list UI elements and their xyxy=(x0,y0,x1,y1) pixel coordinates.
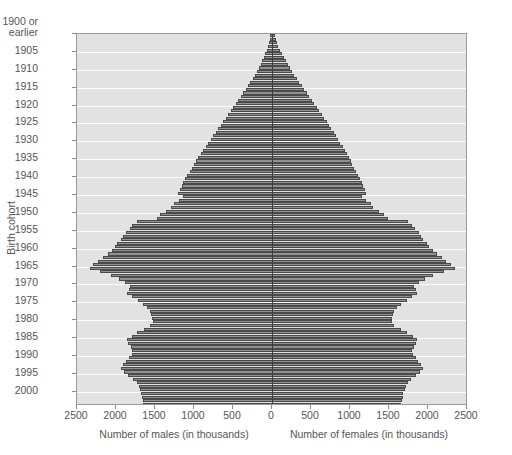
x-tick-label: 2000 xyxy=(415,409,438,421)
x-tick-label: 500 xyxy=(301,409,319,421)
y-tick-label: 1945 xyxy=(15,188,38,199)
y-tick-label: 1905 xyxy=(15,45,38,56)
population-pyramid-figure: Birth cohort 1900 orearlier1905191019151… xyxy=(0,0,512,455)
y-tick-label: 1930 xyxy=(15,134,38,145)
center-axis-line xyxy=(272,34,273,404)
y-tick-label: 1935 xyxy=(15,152,38,163)
y-tick-label: 1950 xyxy=(15,206,38,217)
x-axis-title-males: Number of males (in thousands) xyxy=(99,428,248,440)
x-tick-label: 0 xyxy=(268,409,274,421)
y-tick-label: 1995 xyxy=(15,367,38,378)
y-tick-label: 1980 xyxy=(15,313,38,324)
y-tick-label: 1960 xyxy=(15,242,38,253)
x-axis-title-females: Number of females (in thousands) xyxy=(290,428,448,440)
y-tick-label: 1975 xyxy=(15,295,38,306)
x-tick-label: 1000 xyxy=(337,409,360,421)
y-tick-label: 1925 xyxy=(15,116,38,127)
x-tick-label: 1500 xyxy=(376,409,399,421)
x-tick-label: 500 xyxy=(223,409,241,421)
male-bar xyxy=(143,403,272,405)
x-tick-label: 2500 xyxy=(64,409,87,421)
y-tick-label: 1920 xyxy=(15,99,38,110)
female-bar xyxy=(272,403,401,405)
y-tick-label: 1900 orearlier xyxy=(2,16,38,38)
y-tick-label: 1970 xyxy=(15,277,38,288)
y-tick-label: 1965 xyxy=(15,260,38,271)
y-tick-label: 1910 xyxy=(15,63,38,74)
y-tick-label: 1940 xyxy=(15,170,38,181)
plot-area xyxy=(76,33,467,405)
y-tick-label: 1955 xyxy=(15,224,38,235)
y-tick-label: 1985 xyxy=(15,331,38,342)
y-tick-label: 1990 xyxy=(15,349,38,360)
x-tick-label: 1500 xyxy=(142,409,165,421)
x-tick-label: 1000 xyxy=(181,409,204,421)
y-tick-label: 2000 xyxy=(15,385,38,396)
x-tick-label: 2500 xyxy=(454,409,477,421)
x-tick-label: 2000 xyxy=(103,409,126,421)
y-tick-label: 1915 xyxy=(15,81,38,92)
